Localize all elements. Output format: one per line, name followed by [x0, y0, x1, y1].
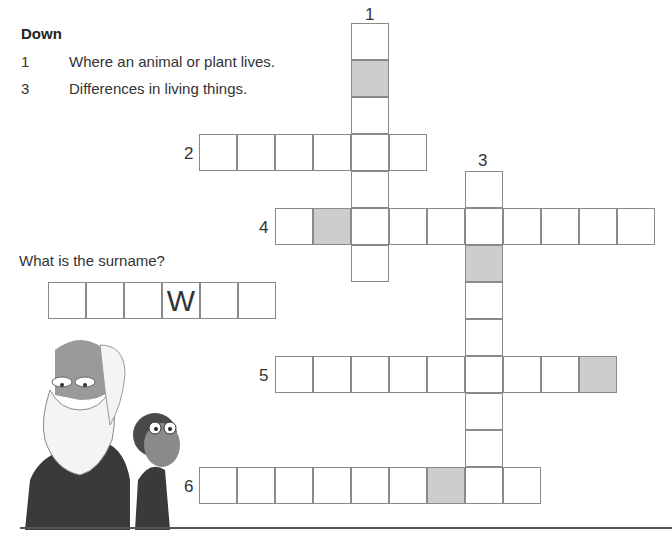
clue-number: 1 — [21, 53, 45, 70]
baseline-rule — [20, 527, 672, 529]
crossword-cell[interactable] — [351, 208, 389, 245]
crossword-cell[interactable] — [199, 467, 237, 504]
crossword-cell[interactable] — [541, 356, 579, 393]
crossword-cell[interactable] — [351, 245, 389, 282]
clue-1-down: 1Where an animal or plant lives. — [21, 53, 275, 70]
surname-cell[interactable] — [86, 282, 124, 319]
crossword-cell[interactable] — [237, 134, 275, 171]
crossword-cell[interactable] — [275, 356, 313, 393]
crossword-cell[interactable] — [389, 208, 427, 245]
crossword-cell[interactable] — [313, 208, 351, 245]
crossword-cell[interactable] — [275, 134, 313, 171]
label-3: 3 — [478, 151, 487, 171]
clue-text: Where an animal or plant lives. — [69, 53, 275, 70]
crossword-cell[interactable] — [617, 208, 655, 245]
clue-3-down: 3Differences in living things. — [21, 80, 247, 97]
crossword-cell[interactable] — [389, 467, 427, 504]
crossword-cell[interactable] — [541, 208, 579, 245]
label-5: 5 — [259, 366, 268, 386]
crossword-cell[interactable] — [275, 467, 313, 504]
crossword-cell[interactable] — [237, 467, 275, 504]
surname-cell[interactable]: W — [162, 282, 200, 319]
label-4: 4 — [259, 218, 268, 238]
surname-question: What is the surname? — [19, 252, 165, 269]
crossword-cell[interactable] — [351, 97, 389, 134]
crossword-cell[interactable] — [427, 208, 465, 245]
crossword-cell[interactable] — [503, 467, 541, 504]
crossword-cell[interactable] — [465, 393, 503, 430]
crossword-cell[interactable] — [313, 134, 351, 171]
crossword-cell[interactable] — [351, 356, 389, 393]
crossword-cell[interactable] — [465, 208, 503, 245]
crossword-cell[interactable] — [465, 282, 503, 319]
crossword-cell[interactable] — [579, 208, 617, 245]
clue-number: 3 — [21, 80, 45, 97]
crossword-cell[interactable] — [275, 208, 313, 245]
crossword-cell[interactable] — [351, 60, 389, 97]
darwin-figure — [25, 340, 130, 530]
crossword-cell[interactable] — [465, 430, 503, 467]
crossword-cell[interactable] — [465, 319, 503, 356]
clue-text: Differences in living things. — [69, 80, 247, 97]
label-1: 1 — [365, 5, 374, 25]
surname-cell[interactable] — [238, 282, 276, 319]
crossword-cell[interactable] — [465, 356, 503, 393]
crossword-cell[interactable] — [503, 356, 541, 393]
crossword-cell[interactable] — [465, 467, 503, 504]
crossword-cell[interactable] — [427, 356, 465, 393]
crossword-cell[interactable] — [351, 171, 389, 208]
crossword-cell[interactable] — [579, 356, 617, 393]
surname-cell[interactable] — [200, 282, 238, 319]
crossword-cell[interactable] — [351, 467, 389, 504]
crossword-cell[interactable] — [389, 356, 427, 393]
crossword-cell[interactable] — [199, 134, 237, 171]
clues-heading: Down — [21, 25, 62, 42]
crossword-cell[interactable] — [427, 467, 465, 504]
crossword-cell[interactable] — [313, 356, 351, 393]
crossword-cell[interactable] — [503, 208, 541, 245]
crossword-cell[interactable] — [351, 134, 389, 171]
surname-cell[interactable] — [124, 282, 162, 319]
crossword-cell[interactable] — [351, 23, 389, 60]
crossword-cell[interactable] — [465, 245, 503, 282]
label-2: 2 — [184, 144, 193, 164]
crossword-cell[interactable] — [465, 171, 503, 208]
surname-cell[interactable] — [48, 282, 86, 319]
crossword-cell[interactable] — [389, 134, 427, 171]
darwin-chimp-illustration — [0, 330, 200, 530]
chimp-figure — [133, 413, 180, 530]
crossword-cell[interactable] — [313, 467, 351, 504]
